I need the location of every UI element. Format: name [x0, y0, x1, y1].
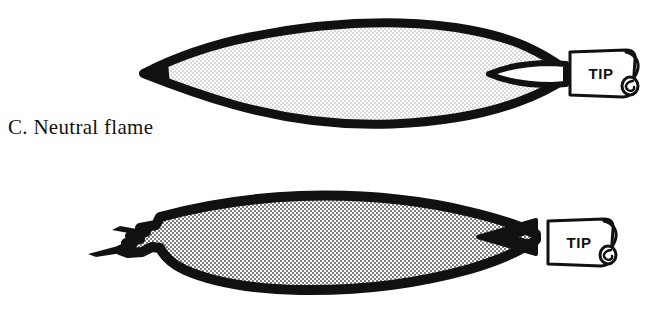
neutral-flame-panel: TIP C. Neutral flame [0, 0, 648, 164]
neutral-flame-caption: C. Neutral flame [8, 115, 153, 139]
torch-tip-label: TIP [566, 234, 591, 251]
figure-canvas: TIP C. Neutral flame [0, 0, 648, 328]
torch-tip-label: TIP [588, 65, 613, 82]
oxidizing-flame-panel: TIP D. Oxidizing flame [0, 164, 648, 328]
torch-hose-knob-icon [622, 77, 638, 95]
oxidizing-flame-diagram: TIP [0, 164, 648, 328]
neutral-flame-diagram: TIP [0, 0, 648, 164]
oxidizing-flame-envelope [120, 196, 536, 290]
torch-hose-knob-icon [600, 246, 616, 264]
